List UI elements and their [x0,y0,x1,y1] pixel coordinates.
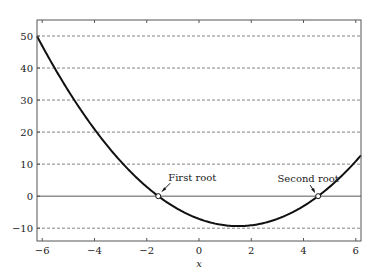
chart: −6−4−20246 −1001020304050 x First root S… [0,0,380,280]
x-tick-label: 6 [353,245,359,256]
y-tick-label: 0 [27,191,33,202]
y-tick-label: 30 [20,95,33,106]
y-tick-label: 40 [20,63,33,74]
plot-frame [37,20,361,241]
second-root-label: Second root [278,173,339,184]
x-tick-label: −2 [139,245,154,256]
x-tick-label: 4 [300,245,306,256]
y-tick-label: 20 [20,127,33,138]
first-root-annotation: First root [156,172,217,199]
x-tick-label: −6 [35,245,50,256]
x-tick-label: 0 [196,245,202,256]
second-root-arrowhead-icon [311,188,315,193]
x-axis-label: x [196,258,202,269]
x-axis-ticks: −6−4−20246 [35,20,359,256]
y-axis-ticks: −1001020304050 [12,31,40,234]
first-root-marker [156,194,161,199]
second-root-marker [316,194,321,199]
first-root-label: First root [168,172,216,183]
y-tick-label: −10 [12,223,33,234]
y-tick-label: 50 [20,31,33,42]
y-tick-label: 10 [20,159,33,170]
x-tick-label: −4 [87,245,102,256]
function-curve [37,36,361,226]
x-tick-label: 2 [248,245,254,256]
